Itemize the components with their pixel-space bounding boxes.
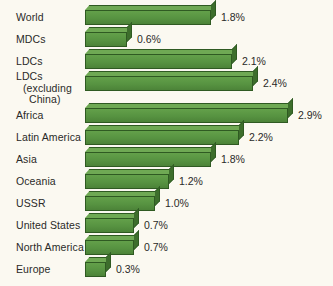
bar-category-label-line: LDCs <box>16 71 72 83</box>
bar-front-face <box>85 32 127 47</box>
bar-body <box>85 76 253 91</box>
bar-front-face <box>85 54 232 69</box>
bar-value-label: 2.2% <box>249 126 273 148</box>
bar-body <box>85 196 155 211</box>
bar-front-face <box>85 262 106 277</box>
bar-value-label: 1.0% <box>165 192 189 214</box>
bar <box>85 50 232 72</box>
bar-side-face <box>155 186 160 206</box>
bar-value-label: 0.7% <box>144 236 168 258</box>
bar-category-label: LDCs <box>16 50 43 72</box>
bar-side-face <box>253 66 258 86</box>
bar-body <box>85 32 127 47</box>
bar-body <box>85 152 211 167</box>
bar-side-face <box>211 0 216 20</box>
bar-category-label: Oceania <box>16 170 56 192</box>
bar-row: Oceania1.2% <box>0 170 333 192</box>
bar-front-face <box>85 152 211 167</box>
bar <box>85 148 211 170</box>
bar-side-face <box>239 120 244 140</box>
bar-category-label: USSR <box>16 192 46 214</box>
bar-row: Africa2.9% <box>0 104 333 126</box>
bar <box>85 104 288 126</box>
bar-row: MDCs0.6% <box>0 28 333 50</box>
bar-body <box>85 54 232 69</box>
bar-row: USSR1.0% <box>0 192 333 214</box>
bar-side-face <box>288 98 293 118</box>
bar-body <box>85 10 211 25</box>
bar-category-label: Asia <box>16 148 37 170</box>
bar-front-face <box>85 218 134 233</box>
bar-value-label: 1.2% <box>179 170 203 192</box>
bar-body <box>85 108 288 123</box>
bar-category-label: World <box>16 6 44 28</box>
bar-front-face <box>85 174 169 189</box>
bar-category-label: LDCs(excludingChina) <box>16 71 72 93</box>
bar-front-face <box>85 196 155 211</box>
bar-row: LDCs(excludingChina)2.4% <box>0 72 333 94</box>
bar-value-label: 1.8% <box>221 6 245 28</box>
bar <box>85 258 106 280</box>
bar <box>85 72 253 94</box>
bar-value-label: 1.8% <box>221 148 245 170</box>
bar-side-face <box>127 22 132 42</box>
bar-category-label: Latin America <box>16 126 81 148</box>
bar-side-face <box>134 208 139 228</box>
bar-front-face <box>85 108 288 123</box>
bar-value-label: 0.7% <box>144 214 168 236</box>
bar-category-label: Europe <box>16 258 50 280</box>
bar-row: LDCs2.1% <box>0 50 333 72</box>
bar-chart: World1.8%MDCs0.6%LDCs2.1%LDCs(excludingC… <box>0 0 333 286</box>
bar-side-face <box>106 252 111 272</box>
bar-category-label: MDCs <box>16 28 46 50</box>
bar-category-label: North America <box>16 236 84 258</box>
bar <box>85 192 155 214</box>
bar <box>85 214 134 236</box>
bar-side-face <box>169 164 174 184</box>
bar-row: World1.8% <box>0 6 333 28</box>
bar <box>85 28 127 50</box>
bar-value-label: 2.4% <box>263 72 287 94</box>
bar-side-face <box>232 44 237 64</box>
bar-category-label: Africa <box>16 104 43 126</box>
bar-side-face <box>211 142 216 162</box>
bar <box>85 6 211 28</box>
bar-body <box>85 218 134 233</box>
bar-front-face <box>85 76 253 91</box>
bar-front-face <box>85 10 211 25</box>
bar-body <box>85 262 106 277</box>
bar-row: North America0.7% <box>0 236 333 258</box>
bar-side-face <box>134 230 139 250</box>
bar-value-label: 2.9% <box>298 104 322 126</box>
bar-row: Latin America2.2% <box>0 126 333 148</box>
bar-row: Asia1.8% <box>0 148 333 170</box>
bar-row: Europe0.3% <box>0 258 333 280</box>
bar-value-label: 0.6% <box>137 28 161 50</box>
bar-value-label: 0.3% <box>116 258 140 280</box>
bar-row: United States0.7% <box>0 214 333 236</box>
bar-category-label: United States <box>16 214 80 236</box>
bar-body <box>85 174 169 189</box>
